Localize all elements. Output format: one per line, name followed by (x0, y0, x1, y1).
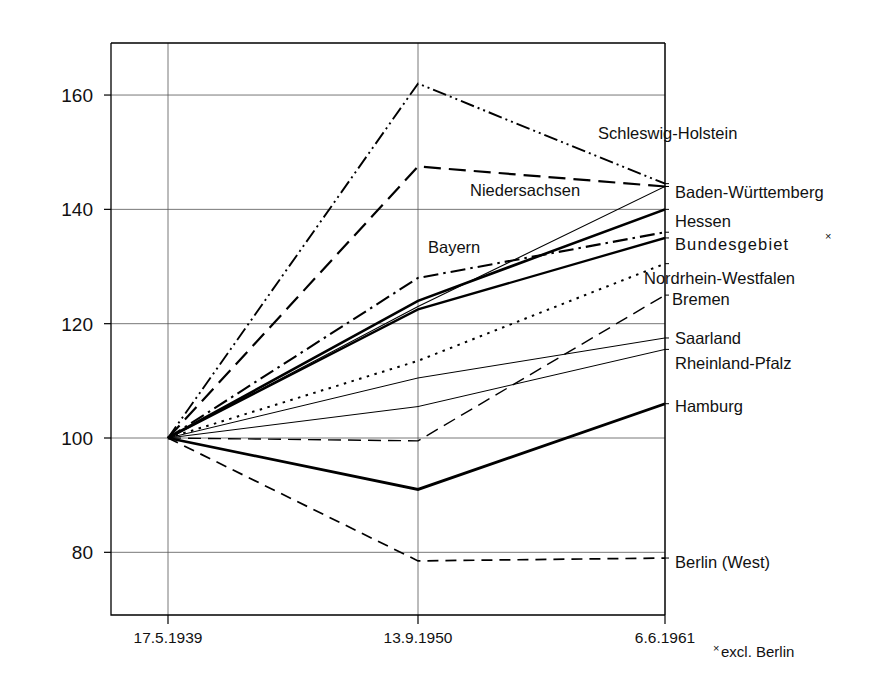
series-label-saarland: Saarland (675, 329, 741, 347)
series-line-hamburg (168, 404, 665, 490)
y-tick-label-120: 120 (61, 314, 93, 335)
series-line-bremen (168, 295, 665, 441)
x-tick-label-2: 6.6.1961 (635, 629, 695, 646)
series-line-nordrhein-westfalen (168, 264, 665, 438)
index-line-chart: 16014012010080 17.5.193913.9.19506.6.196… (0, 0, 896, 693)
plot-axes (111, 43, 665, 615)
series-group (168, 84, 665, 561)
series-label-baden-w-rttemberg: Baden-Württemberg (675, 183, 824, 201)
series-line-bundesgebiet (168, 238, 665, 438)
series-label-schleswig-holstein: Schleswig-Holstein (598, 124, 737, 142)
series-label-bundesgebiet: Bundesgebiet (675, 235, 789, 253)
series-label-nordrhein-westfalen: Nordrhein-Westfalen (644, 269, 795, 287)
y-tick-label-100: 100 (61, 428, 93, 449)
x-axis-tick-labels: 17.5.193913.9.19506.6.1961 (134, 629, 696, 646)
footnote-mark: × (713, 642, 719, 654)
series-label-bremen: Bremen (672, 290, 730, 308)
x-tick-label-1: 13.9.1950 (384, 629, 453, 646)
y-axis-tick-labels: 16014012010080 (61, 85, 93, 563)
series-line-saarland (168, 338, 665, 438)
bundesgebiet-footnote-mark: × (825, 230, 831, 242)
series-label-niedersachsen: Niedersachsen (470, 181, 580, 199)
gridlines-group (104, 43, 665, 624)
y-tick-label-140: 140 (61, 199, 93, 220)
chart-page: 16014012010080 17.5.193913.9.19506.6.196… (0, 0, 896, 693)
y-tick-label-160: 160 (61, 85, 93, 106)
series-label-berlin-west: Berlin (West) (675, 553, 770, 571)
x-tick-label-0: 17.5.1939 (134, 629, 203, 646)
footnote-text: excl. Berlin (721, 643, 794, 660)
y-tick-label-80: 80 (72, 542, 93, 563)
series-label-hamburg: Hamburg (675, 397, 743, 415)
series-line-berlin-west (168, 438, 665, 561)
series-line-rheinland-pfalz (168, 349, 665, 438)
series-label-bayern: Bayern (428, 238, 480, 256)
series-inline-labels: Schleswig-HolsteinNiedersachsenBayernBad… (428, 124, 831, 571)
series-label-hessen: Hessen (675, 212, 731, 230)
plot-frame (111, 43, 665, 615)
footnote-group: ×excl. Berlin (713, 642, 794, 660)
series-label-rheinland-pfalz: Rheinland-Pfalz (675, 354, 791, 372)
series-line-schleswig-holstein (168, 84, 665, 438)
